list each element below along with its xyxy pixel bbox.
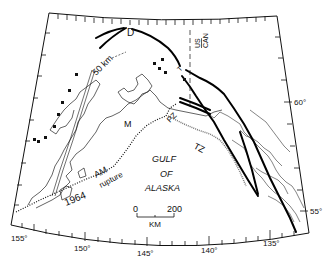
fifty-km-label: 50 km xyxy=(90,53,114,77)
fifty-km-dashes xyxy=(112,52,126,58)
map-frame xyxy=(11,13,309,246)
lon-label-155: 155° xyxy=(11,234,28,243)
gulf-label-line2: OF xyxy=(160,169,173,179)
can-label: CAN xyxy=(202,33,209,48)
gulf-label-line3: ALASKA xyxy=(144,183,180,193)
slab-contour-50km xyxy=(52,70,95,196)
tz-label: TZ xyxy=(192,141,207,155)
lon-label-135: 135° xyxy=(263,239,280,248)
us-label: US xyxy=(194,38,201,48)
fault-lines xyxy=(96,28,296,232)
lon-label-145: 145° xyxy=(137,249,154,258)
transition-zone-trench xyxy=(168,116,246,186)
denali-fault-label: D xyxy=(127,27,134,38)
coastline xyxy=(28,74,222,208)
volcano-markers xyxy=(33,58,186,143)
scale-unit-label: KM xyxy=(149,220,161,229)
lon-label-140: 140° xyxy=(201,246,218,255)
map-canvas: D 50 km US CAN T M PZ TZ AM rupture 1964… xyxy=(0,0,330,265)
year-label: 1964 xyxy=(63,189,88,208)
scale-end-label: 200 xyxy=(167,204,182,214)
scale-bar: 0 200 KM xyxy=(133,204,182,229)
gulf-label-line1: GULF xyxy=(152,154,177,164)
lat-label-55: 55° xyxy=(310,207,322,216)
southeast-coast xyxy=(206,110,304,222)
lat-label-60: 60° xyxy=(294,98,306,107)
lon-label-150: 150° xyxy=(74,244,91,253)
m-label: M xyxy=(124,119,132,129)
right-ticks xyxy=(275,37,308,211)
scale-start-label: 0 xyxy=(133,204,138,214)
